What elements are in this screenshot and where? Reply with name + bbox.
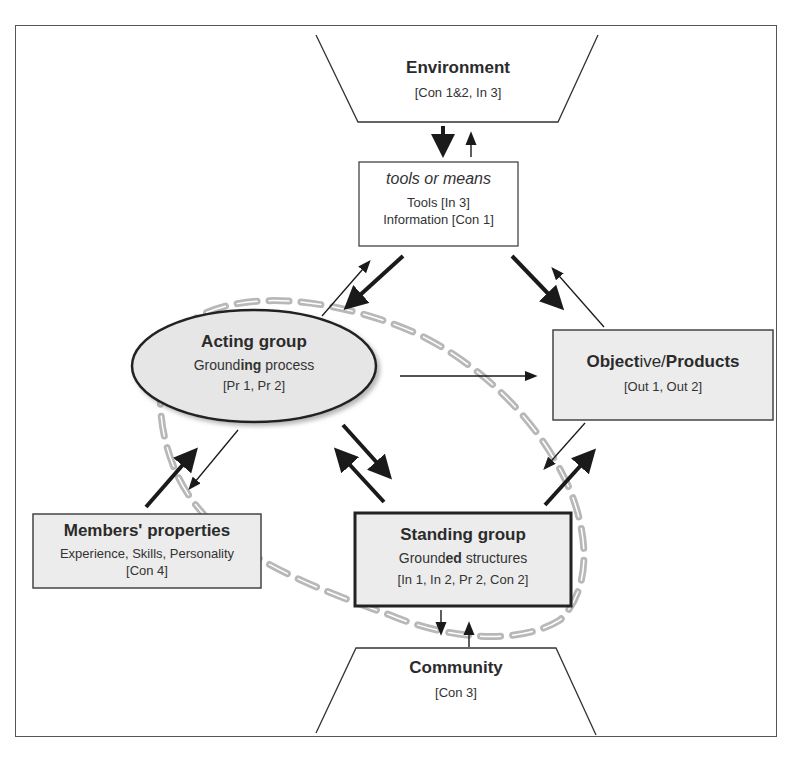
standing-group-refs: [In 1, In 2, Pr 2, Con 2]	[355, 571, 571, 588]
acting-group-sub-prefix: Ground	[194, 357, 241, 373]
acting-group-refs: [Pr 1, Pr 2]	[134, 377, 374, 394]
arrow-tools-to-acting-group	[348, 256, 403, 306]
acting-group-subtitle: Grounding process	[134, 357, 374, 374]
arrow-objective-to-standing-group	[545, 423, 585, 468]
community-refs: [Con 3]	[356, 684, 556, 701]
environment-refs: [Con 1&2, In 3]	[358, 84, 558, 101]
acting-group-title: Acting group	[134, 332, 374, 352]
standing-group-sub-prefix: Ground	[399, 550, 446, 566]
tools-title: tools or means	[359, 170, 518, 188]
acting-group-node: Acting group Grounding process [Pr 1, Pr…	[134, 332, 374, 394]
arrow-standing-group-to-acting-group	[338, 452, 384, 502]
tools-node: tools or means Tools [In 3] Information …	[359, 170, 518, 228]
arrow-acting-group-to-members	[190, 430, 238, 488]
tools-line1: Tools [In 3]	[359, 194, 518, 211]
members-node: Members' properties Experience, Skills, …	[33, 521, 261, 579]
members-refs: [Con 4]	[33, 562, 261, 579]
arrow-tools-to-objective	[512, 256, 560, 306]
members-title: Members' properties	[33, 521, 261, 541]
members-line1: Experience, Skills, Personality	[33, 545, 261, 562]
standing-group-node: Standing group Grounded structures [In 1…	[355, 525, 571, 588]
objective-title-part2: ive/	[639, 352, 665, 371]
community-node: Community [Con 3]	[356, 658, 556, 701]
objective-title-part3: Products	[666, 352, 740, 371]
environment-node: Environment [Con 1&2, In 3]	[358, 58, 558, 101]
environment-title: Environment	[358, 58, 558, 78]
standing-group-sub-suffix: structures	[462, 550, 527, 566]
arrow-objective-to-tools	[553, 269, 604, 327]
community-title: Community	[356, 658, 556, 678]
standing-group-title: Standing group	[355, 525, 571, 545]
tools-line2: Information [Con 1]	[359, 211, 518, 228]
standing-group-subtitle: Grounded structures	[355, 550, 571, 567]
objective-title: Objective/Products	[553, 352, 773, 372]
acting-group-sub-bold: ing	[240, 357, 261, 373]
standing-group-sub-bold: ed	[446, 550, 462, 566]
objective-node: Objective/Products [Out 1, Out 2]	[553, 352, 773, 395]
acting-group-sub-suffix: process	[261, 357, 314, 373]
objective-refs: [Out 1, Out 2]	[553, 378, 773, 395]
objective-title-part1: Object	[586, 352, 639, 371]
